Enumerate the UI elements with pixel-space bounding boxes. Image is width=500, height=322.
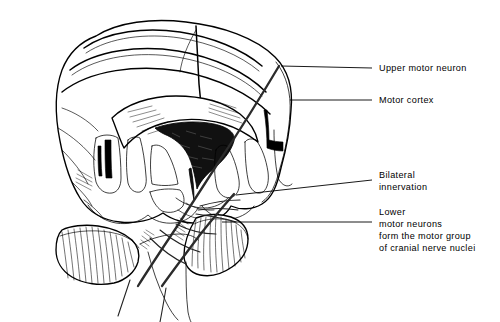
label-lower-motor-neurons-line-3: form the motor group — [379, 231, 471, 241]
brain-diagram: Upper motor neuron Motor cortex Bilatera… — [0, 0, 500, 322]
label-bilateral-innervation-line-2: innervation — [379, 182, 427, 192]
figure-page: Upper motor neuron Motor cortex Bilatera… — [0, 0, 500, 322]
left-deep-sulcus — [105, 140, 112, 178]
label-lower-motor-neurons-line-1: Lower — [379, 207, 406, 217]
label-upper-motor-neuron-text: Upper motor neuron — [379, 63, 467, 73]
label-motor-cortex-text: Motor cortex — [379, 95, 434, 105]
label-bilateral-innervation-line-1: Bilateral — [379, 170, 415, 180]
label-lower-motor-neurons-line-4: of cranial nerve nuclei — [379, 243, 476, 253]
label-lower-motor-neurons-line-2: motor neurons — [379, 219, 442, 229]
